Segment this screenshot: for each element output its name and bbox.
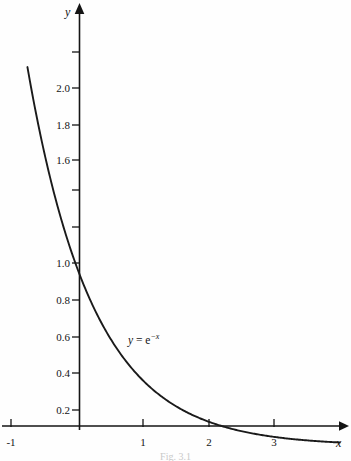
y-tick-label-0-6: 0.6	[44, 332, 70, 343]
y-tick-label-2-0: 2.0	[44, 83, 70, 94]
equation-equals: =	[133, 334, 145, 346]
y-axis-label: y	[65, 6, 70, 18]
equation-exponent: −x	[150, 332, 159, 341]
x-tick-label-2: 2	[206, 437, 212, 448]
y-tick-label-0-4: 0.4	[44, 368, 70, 379]
x-tick-label-3: 3	[271, 437, 277, 448]
y-tick-label-1-6: 1.6	[44, 155, 70, 166]
x-axis-label: x	[336, 437, 341, 449]
exponential-decay-figure: 2.0 1.8 1.6 1.0 0.8 0.6 0.4 0.2 -1 1 2 3…	[0, 0, 351, 461]
exponential-curve-layer	[0, 0, 351, 461]
exponential-curve-path	[27, 67, 339, 442]
y-tick-label-0-8: 0.8	[44, 295, 70, 306]
y-tick-label-0-2: 0.2	[44, 405, 70, 416]
y-tick-label-1-8: 1.8	[44, 120, 70, 131]
x-tick-label-minus-1: -1	[6, 437, 15, 448]
x-tick-label-1: 1	[140, 437, 146, 448]
y-tick-label-1-0: 1.0	[44, 258, 70, 269]
curve-equation-label: y = e−x	[128, 333, 159, 346]
figure-caption: Fig. 3.1	[0, 452, 351, 461]
